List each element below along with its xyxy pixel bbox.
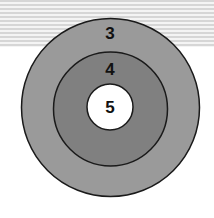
target-diagram: 3 4 5 [0, 0, 214, 218]
ring-5-label: 5 [105, 98, 114, 117]
ring-3-label: 3 [105, 24, 114, 43]
ring-4-label: 4 [105, 60, 115, 79]
